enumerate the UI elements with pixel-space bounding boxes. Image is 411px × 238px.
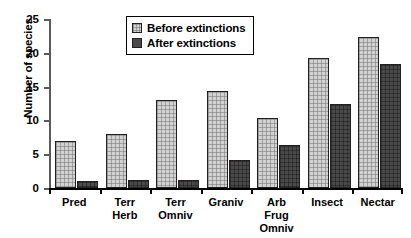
x-axis-label: Terr Herb: [100, 196, 151, 222]
y-tick-mark: 25: [44, 19, 51, 21]
bar: [330, 104, 351, 188]
x-axis-label: Arb Frug Omniv: [251, 196, 302, 235]
x-tick-mark: [352, 188, 354, 194]
bar-group: [55, 19, 98, 188]
x-tick-mark: [251, 188, 253, 194]
x-tick-mark: [100, 188, 102, 194]
bar: [380, 64, 401, 188]
y-tick-label: 10: [26, 114, 39, 126]
bar: [106, 134, 127, 188]
y-tick-label: 20: [26, 47, 39, 59]
x-tick-mark: [49, 188, 51, 194]
y-tick-label: 15: [26, 81, 39, 93]
legend-item-before: Before extinctions: [132, 20, 246, 35]
chart-legend: Before extinctions After extinctions: [126, 16, 254, 55]
bar: [279, 145, 300, 188]
y-tick-label: 25: [26, 13, 39, 25]
y-tick-label: 0: [33, 182, 39, 194]
bar: [178, 180, 199, 188]
bar-group: [257, 19, 300, 188]
y-tick-mark: 10: [44, 120, 51, 122]
bar: [229, 160, 250, 188]
legend-item-after: After extinctions: [132, 35, 246, 50]
bar: [55, 141, 76, 188]
bar: [257, 118, 278, 188]
bar: [156, 100, 177, 188]
y-tick-mark: 5: [44, 154, 51, 156]
x-axis-label: Graniv: [201, 196, 252, 209]
legend-label-after: After extinctions: [147, 37, 236, 49]
bar-group: [308, 19, 351, 188]
x-tick-mark: [302, 188, 304, 194]
y-tick-mark: 20: [44, 53, 51, 55]
x-axis-label: Pred: [49, 196, 100, 209]
y-tick-label: 5: [33, 148, 39, 160]
x-tick-mark: [401, 188, 403, 194]
x-axis-label: Nectar: [352, 196, 403, 209]
y-tick-mark: 15: [44, 87, 51, 89]
legend-label-before: Before extinctions: [147, 22, 246, 34]
legend-swatch-before-icon: [132, 23, 142, 33]
bar: [128, 180, 149, 188]
bar-chart: Number of species 0510152025 PredTerr He…: [0, 0, 411, 238]
bar: [308, 58, 329, 188]
x-axis-label: Terr Omniv: [150, 196, 201, 222]
x-axis-label: Insect: [302, 196, 353, 209]
x-tick-mark: [201, 188, 203, 194]
x-tick-mark: [150, 188, 152, 194]
x-axis-line: [49, 188, 403, 190]
bar: [358, 37, 379, 188]
y-axis-line: [49, 19, 51, 190]
bar: [207, 91, 228, 188]
bar-group: [358, 19, 401, 188]
legend-swatch-after-icon: [132, 38, 142, 48]
bar: [77, 181, 98, 188]
